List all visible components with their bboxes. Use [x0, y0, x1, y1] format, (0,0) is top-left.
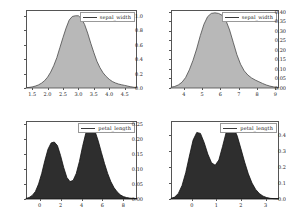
y-tick-label: 0.15	[261, 56, 286, 62]
y-tick-mark	[24, 16, 26, 17]
y-tick-label: 0.1	[261, 180, 286, 186]
y-tick-mark	[169, 31, 171, 32]
y-tick-mark	[24, 30, 26, 31]
y-tick-label: 0.3	[261, 148, 286, 154]
y-tick-label: 0.35	[261, 18, 286, 24]
legend-line-icon	[223, 128, 237, 129]
x-tick-mark	[123, 199, 124, 201]
x-tick-label: 4	[182, 91, 185, 97]
x-tick-label: 9	[274, 91, 277, 97]
y-tick-label: 0.25	[261, 37, 286, 43]
x-tick-mark	[241, 199, 242, 201]
y-tick-mark	[24, 124, 26, 125]
x-tick-label: 2.0	[44, 91, 52, 97]
x-tick-label: 7	[237, 91, 240, 97]
x-tick-mark	[125, 88, 126, 90]
x-tick-mark	[63, 88, 64, 90]
y-tick-mark	[24, 45, 26, 46]
x-tick-mark	[275, 88, 276, 90]
x-tick-mark	[109, 88, 110, 90]
x-tick-label: 1	[215, 202, 218, 208]
y-tick-label: 0.40	[261, 9, 286, 15]
panel-bottom-left: petal_length 0.000.050.100.150.200.25024…	[0, 112, 143, 223]
y-tick-mark	[169, 21, 171, 22]
y-tick-mark	[24, 88, 26, 89]
y-tick-label: 0.4	[120, 56, 143, 62]
y-tick-mark	[24, 199, 26, 200]
y-tick-label: 0.30	[261, 28, 286, 34]
x-tick-mark	[202, 88, 203, 90]
x-tick-label: 4.5	[121, 91, 129, 97]
y-tick-mark	[169, 78, 171, 79]
y-tick-mark	[169, 88, 171, 89]
y-tick-label: 0.15	[120, 151, 143, 157]
x-tick-mark	[40, 199, 41, 201]
y-tick-mark	[24, 139, 26, 140]
x-tick-mark	[102, 199, 103, 201]
y-tick-label: 0.2	[261, 164, 286, 170]
legend-line-icon	[83, 17, 97, 18]
y-tick-mark	[169, 69, 171, 70]
x-tick-mark	[82, 199, 83, 201]
legend-label: petal_length	[240, 125, 273, 131]
y-tick-mark	[169, 59, 171, 60]
x-tick-label: 3.0	[74, 91, 82, 97]
y-tick-mark	[24, 184, 26, 185]
x-tick-label: 3.5	[90, 91, 98, 97]
x-tick-mark	[94, 88, 95, 90]
y-tick-label: 0.05	[261, 75, 286, 81]
y-tick-label: 0.10	[120, 166, 143, 172]
y-tick-mark	[169, 40, 171, 41]
panel-top-left: sepal_width 0.00.20.40.60.81.01.52.02.53…	[0, 0, 143, 111]
x-tick-mark	[239, 88, 240, 90]
y-tick-label: 0.2	[120, 71, 143, 77]
legend-line-icon	[81, 128, 95, 129]
x-tick-mark	[192, 199, 193, 201]
y-tick-mark	[24, 74, 26, 75]
x-tick-label: 5	[201, 91, 204, 97]
y-tick-label: 0.6	[120, 42, 143, 48]
x-tick-mark	[220, 88, 221, 90]
x-tick-label: 2	[59, 202, 62, 208]
figure-grid: sepal_width 0.00.20.40.60.81.01.52.02.53…	[0, 0, 286, 223]
x-tick-label: 8	[122, 202, 125, 208]
panel-top-right: sepal_width 0.000.050.100.150.200.250.30…	[143, 0, 286, 111]
y-tick-mark	[169, 167, 171, 168]
panel-bottom-right: petal_length 0.00.10.20.30.40123	[143, 112, 286, 223]
x-tick-mark	[32, 88, 33, 90]
x-tick-label: 1.5	[28, 91, 36, 97]
x-tick-mark	[78, 88, 79, 90]
x-tick-label: 4	[80, 202, 83, 208]
y-tick-label: 0.20	[120, 136, 143, 142]
y-tick-mark	[169, 151, 171, 152]
x-tick-label: 0	[190, 202, 193, 208]
y-tick-mark	[24, 169, 26, 170]
y-tick-label: 0.05	[120, 181, 143, 187]
legend-line-icon	[225, 17, 239, 18]
x-tick-label: 8	[255, 91, 258, 97]
y-tick-mark	[169, 183, 171, 184]
x-tick-mark	[184, 88, 185, 90]
x-tick-mark	[61, 199, 62, 201]
y-tick-label: 0.8	[120, 27, 143, 33]
x-tick-label: 0	[38, 202, 41, 208]
y-tick-mark	[169, 135, 171, 136]
y-tick-mark	[24, 59, 26, 60]
x-tick-label: 6	[101, 202, 104, 208]
x-tick-mark	[257, 88, 258, 90]
x-tick-mark	[48, 88, 49, 90]
y-tick-label: 0.25	[120, 121, 143, 127]
x-tick-label: 2.5	[59, 91, 67, 97]
y-tick-label: 0.4	[261, 132, 286, 138]
x-tick-label: 6	[219, 91, 222, 97]
y-tick-label: 1.0	[120, 13, 143, 19]
y-tick-mark	[169, 199, 171, 200]
y-tick-mark	[169, 12, 171, 13]
y-tick-mark	[169, 50, 171, 51]
x-tick-mark	[266, 199, 267, 201]
x-tick-label: 4.0	[105, 91, 113, 97]
x-tick-label: 2	[239, 202, 242, 208]
y-tick-mark	[24, 154, 26, 155]
y-tick-label: 0.20	[261, 47, 286, 53]
x-tick-label: 3	[264, 202, 267, 208]
